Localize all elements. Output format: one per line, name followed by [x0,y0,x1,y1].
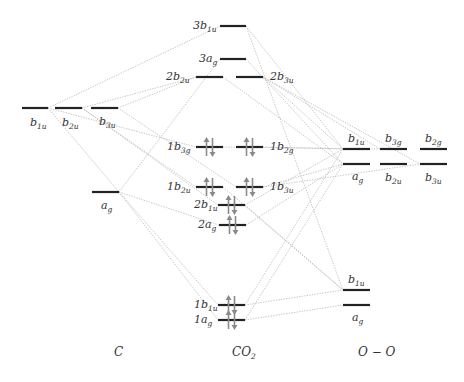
orbital-label: 1ag [194,313,213,328]
orbital-level-oo-ag: ag [343,164,370,185]
orbital-level-oo-b2u: b2u [380,164,407,186]
orbital-level-co2-1ag: 1ag [194,310,245,330]
column-title-c: C [114,345,123,359]
energy-levels: b1ub2ub3uag3b1u3ag2b2u2b3u1b3g1b2g1b2u1b… [22,19,447,330]
orbital-label: ag [352,311,364,326]
orbital-label: 2b2u [165,70,190,85]
correlation-line [263,77,343,149]
orbital-label: 2ag [197,218,217,233]
column-titles: C CO2 O − O [114,345,396,361]
orbital-level-co2-1b1u: 1b1u [194,295,245,315]
orbital-label: 1b3g [167,140,191,155]
orbital-level-co2-1b3u: 1b3u [236,177,294,197]
column-title-co2: CO2 [232,345,256,361]
orbital-level-co2-2ag: 2ag [197,215,246,235]
orbital-level-co2-3ag: 3ag [199,52,246,67]
correlation-line [48,26,220,108]
orbital-level-co2-1b2g: 1b2g [236,137,294,157]
orbital-label: b2u [385,171,402,186]
mo-diagram: b1ub2ub3uag3b1u3ag2b2u2b3u1b3g1b2g1b2u1b… [0,0,464,382]
orbital-label: 2b3u [269,70,294,85]
orbital-level-c-b1u: b1u [22,108,48,131]
orbital-label: b2g [425,132,442,147]
orbital-level-c-ag: ag [92,192,119,214]
orbital-label: 2b1u [193,198,218,213]
orbital-label: 3b1u [193,19,217,34]
orbital-level-c-b2u: b2u [55,108,82,131]
orbital-label: 3ag [199,52,218,67]
orbital-level-oo-b2g: b2g [420,132,447,149]
orbital-label: 1b2g [270,140,294,155]
orbital-level-co2-2b1u: 2b1u [193,195,245,215]
orbital-correlation-lines [48,26,420,320]
orbital-label: b3g [385,132,402,147]
correlation-line [245,305,343,320]
orbital-label: b3u [425,171,442,186]
correlation-line [246,26,343,290]
orbital-label: b1u [30,116,47,131]
orbital-level-c-b3u: b3u [91,108,118,130]
orbital-label: b2u [62,116,79,131]
correlation-line [246,26,343,149]
correlation-line [245,290,343,305]
orbital-label: ag [101,199,113,214]
orbital-label: 1b3u [270,180,294,195]
correlation-line [223,187,343,290]
orbital-label: 1b2u [167,180,191,195]
correlation-line [245,149,343,305]
orbital-label: b1u [348,273,365,288]
correlation-line [245,149,343,205]
orbital-level-oo-b1u-low: b1u [343,273,370,290]
column-title-o-o: O − O [358,345,396,359]
orbital-level-oo-b3u: b3u [420,164,447,186]
correlation-line [246,164,343,225]
orbital-level-co2-1b2u: 1b2u [167,177,223,197]
orbital-label: b3u [99,115,116,130]
orbital-level-oo-ag-low: ag [343,305,370,326]
orbital-level-oo-b3g: b3g [380,132,407,149]
